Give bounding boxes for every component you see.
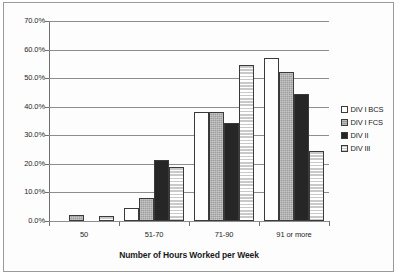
y-axis-label: 10.0% (5, 188, 45, 196)
chart-legend: DIV I BCSDIV I FCSDIV IIDIV III (341, 103, 399, 155)
x-axis-tick (329, 222, 330, 226)
legend-item-label: DIV I BCS (351, 106, 384, 114)
y-axis-tick (45, 50, 49, 51)
bar (124, 208, 139, 221)
bar-group (264, 21, 324, 221)
bar-group (194, 21, 254, 221)
bar (294, 94, 309, 221)
y-axis-label: 40.0% (5, 103, 45, 111)
x-axis-title: Number of Hours Worked per Week (49, 250, 329, 260)
legend-item[interactable]: DIV I FCS (341, 116, 399, 129)
bar (69, 215, 84, 221)
bar (224, 123, 239, 221)
y-axis-tick (45, 78, 49, 79)
legend-swatch-icon (341, 106, 348, 113)
bar (264, 58, 279, 221)
x-axis-label: 51-70 (119, 230, 189, 239)
legend-item-label: DIV II (351, 132, 369, 140)
x-axis-tick (49, 222, 50, 226)
x-axis-label: 91 or more (259, 230, 329, 239)
x-axis-tick (259, 222, 260, 226)
legend-item-label: DIV I FCS (351, 119, 383, 127)
y-axis-tick (45, 107, 49, 108)
bar-group (54, 21, 114, 221)
bar (209, 112, 224, 221)
legend-item[interactable]: DIV II (341, 129, 399, 142)
bar (239, 65, 254, 221)
legend-item[interactable]: DIV III (341, 142, 399, 155)
y-axis-label: 60.0% (5, 46, 45, 54)
x-axis-tick (119, 222, 120, 226)
bar (154, 160, 169, 221)
legend-swatch-icon (341, 145, 348, 152)
bar (169, 167, 184, 221)
y-axis-tick (45, 164, 49, 165)
bar (279, 72, 294, 221)
chart-frame: 0.0%10.0%20.0%30.0%40.0%50.0%60.0%70.0% … (3, 2, 394, 272)
bar (139, 198, 154, 221)
x-axis-label: 50 (49, 230, 119, 239)
legend-swatch-icon (341, 132, 348, 139)
bar-group (124, 21, 184, 221)
legend-swatch-icon (341, 119, 348, 126)
y-axis-label: 70.0% (5, 17, 45, 25)
bar (309, 151, 324, 221)
y-axis-tick (45, 21, 49, 22)
legend-item[interactable]: DIV I BCS (341, 103, 399, 116)
y-axis-label-group: 0.0%10.0%20.0%30.0%40.0%50.0%60.0%70.0% (4, 21, 45, 222)
y-axis-label: 20.0% (5, 160, 45, 168)
bar (99, 216, 114, 221)
y-axis-label: 0.0% (5, 217, 45, 225)
y-axis-tick (45, 135, 49, 136)
bar (194, 112, 209, 221)
x-axis-tick (189, 222, 190, 226)
y-axis-label: 30.0% (5, 131, 45, 139)
legend-item-label: DIV III (351, 145, 371, 153)
x-axis-label: 71-90 (189, 230, 259, 239)
y-axis-tick (45, 192, 49, 193)
y-axis-label: 50.0% (5, 74, 45, 82)
plot-area (49, 21, 329, 221)
